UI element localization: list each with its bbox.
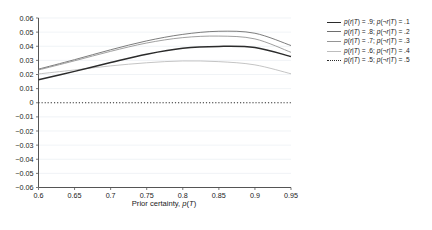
x-tick-label: 0.65 xyxy=(68,191,82,200)
x-tick-label: 0.9 xyxy=(250,191,260,200)
legend-item[interactable]: p(r|T) = .8; p(¬r|T) = .2 xyxy=(327,27,432,37)
legend-item[interactable]: p(r|T) = .5; p(¬r|T) = .5 xyxy=(327,55,432,65)
y-tick-label: 0.05 xyxy=(20,28,34,37)
y-tick-label: −0.03 xyxy=(15,141,33,150)
x-tick-label: 0.85 xyxy=(212,191,226,200)
y-tick-label: −0.05 xyxy=(15,169,33,178)
y-tick-label: −0.06 xyxy=(15,183,33,192)
legend-swatch-icon xyxy=(327,56,341,65)
x-tick-label: 0.95 xyxy=(284,191,298,200)
y-tick-label: −0.02 xyxy=(15,127,33,136)
series-line xyxy=(39,61,292,74)
y-tick-label: −0.01 xyxy=(15,112,33,121)
y-tick-label: −0.04 xyxy=(15,155,33,164)
x-axis-title: Prior certainty, p(T) xyxy=(132,199,197,208)
y-tick-label: 0.06 xyxy=(20,14,34,23)
legend-item-label: p(r|T) = .9; p(¬r|T) = .1 xyxy=(344,17,410,27)
y-tick-label: 0.02 xyxy=(20,70,34,79)
legend-item[interactable]: p(r|T) = .9; p(¬r|T) = .1 xyxy=(327,17,432,27)
legend-item-label: p(r|T) = .5; p(¬r|T) = .5 xyxy=(344,55,410,65)
legend-item[interactable]: p(r|T) = .6; p(¬r|T) = .4 xyxy=(327,46,432,56)
y-tick-label: 0 xyxy=(30,98,34,107)
legend-swatch-icon xyxy=(327,17,341,26)
y-tick-label: 0.01 xyxy=(20,84,34,93)
y-tick-label: 0.03 xyxy=(20,56,34,65)
y-axis-ticks: 0.060.050.040.030.020.010−0.01−0.02−0.03… xyxy=(15,14,38,193)
x-axis-ticks: 0.60.650.70.750.80.850.90.95 xyxy=(34,188,299,200)
legend-swatch-icon xyxy=(327,46,341,55)
x-tick-label: 0.7 xyxy=(106,191,116,200)
legend-item-label: p(r|T) = .7; p(¬r|T) = .3 xyxy=(344,36,410,46)
data-series-group xyxy=(39,31,292,103)
chart-figure: 0.060.050.040.030.020.010−0.01−0.02−0.03… xyxy=(0,0,432,230)
chart-legend: p(r|T) = .9; p(¬r|T) = .1p(r|T) = .8; p(… xyxy=(327,17,432,65)
legend-item-label: p(r|T) = .8; p(¬r|T) = .2 xyxy=(344,27,410,37)
legend-item-label: p(r|T) = .6; p(¬r|T) = .4 xyxy=(344,46,410,56)
legend-item[interactable]: p(r|T) = .7; p(¬r|T) = .3 xyxy=(327,36,432,46)
legend-swatch-icon xyxy=(327,36,341,45)
y-tick-label: 0.04 xyxy=(20,42,34,51)
legend-swatch-icon xyxy=(327,27,341,36)
x-tick-label: 0.6 xyxy=(34,191,44,200)
